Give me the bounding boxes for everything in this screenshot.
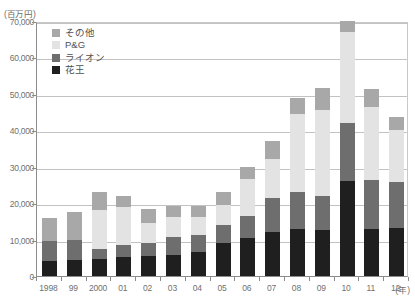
bar-segment — [340, 181, 355, 276]
bar-segment — [265, 141, 280, 159]
x-axis-tick-label: 04 — [185, 283, 210, 293]
bar-segment — [240, 216, 255, 238]
legend-item: 花王 — [52, 65, 105, 76]
bar-segment — [166, 217, 181, 236]
bar-segment — [42, 261, 57, 276]
x-axis-tick-label: 07 — [259, 283, 284, 293]
bar-segment — [67, 240, 82, 260]
bar-segment — [240, 238, 255, 276]
x-axis-tick-mark — [234, 277, 235, 281]
y-axis-tick-label: 0 — [0, 272, 34, 282]
bar-segment — [141, 243, 156, 256]
legend-swatch-icon — [52, 41, 60, 49]
bar-01 — [116, 196, 131, 276]
x-axis-tick-label: 05 — [210, 283, 235, 293]
bar-segment — [191, 217, 206, 235]
bar-03 — [166, 206, 181, 276]
legend-label: ライオン — [65, 53, 105, 63]
bar-segment — [141, 223, 156, 243]
bar-11 — [364, 89, 379, 276]
y-axis-tick-label: 20,000 — [0, 199, 34, 209]
bar-segment — [216, 243, 231, 276]
y-axis-tick-label: 70,000 — [0, 17, 34, 27]
x-axis-tick-label: 06 — [234, 283, 259, 293]
y-axis-tick-label: 60,000 — [0, 53, 34, 63]
bar-12 — [389, 117, 404, 276]
bar-segment — [166, 255, 181, 276]
bar-segment — [116, 257, 131, 276]
legend-swatch-icon — [52, 66, 60, 74]
x-axis-tick-label: 02 — [135, 283, 160, 293]
bar-segment — [166, 237, 181, 255]
bar-06 — [240, 167, 255, 276]
x-axis-tick-label: 99 — [61, 283, 86, 293]
y-axis-tick-label: 10,000 — [0, 236, 34, 246]
legend-item: ライオン — [52, 52, 105, 63]
bar-segment — [216, 225, 231, 243]
y-axis-tick-label: 40,000 — [0, 126, 34, 136]
bar-segment — [389, 117, 404, 130]
x-axis-tick-mark — [61, 277, 62, 281]
bar-segment — [265, 159, 280, 197]
bar-09 — [315, 88, 330, 276]
bar-1998 — [42, 218, 57, 276]
bar-segment — [191, 206, 206, 217]
x-axis-tick-label: 10 — [334, 283, 359, 293]
x-axis-tick-mark — [135, 277, 136, 281]
bar-segment — [340, 123, 355, 181]
bar-08 — [290, 98, 305, 277]
x-axis-tick-label: 09 — [309, 283, 334, 293]
chart-legend: その他P&Gライオン花王 — [52, 27, 105, 76]
bar-segment — [42, 241, 57, 261]
x-axis: (年) 1998992000010203040506070809101112 — [36, 277, 408, 303]
x-axis-tick-label: 01 — [110, 283, 135, 293]
bar-segment — [116, 207, 131, 245]
bar-05 — [216, 192, 231, 276]
bar-segment — [340, 21, 355, 32]
bar-segment — [216, 205, 231, 225]
bar-segment — [141, 209, 156, 224]
bar-segment — [315, 110, 330, 196]
x-axis-tick-mark — [408, 277, 409, 281]
x-axis-tick-mark — [259, 277, 260, 281]
bar-segment — [290, 229, 305, 276]
bar-segment — [92, 210, 107, 248]
bar-segment — [364, 180, 379, 229]
bar-segment — [116, 196, 131, 207]
bar-segment — [389, 182, 404, 228]
bar-2000 — [92, 192, 107, 276]
bar-99 — [67, 212, 82, 276]
x-axis-tick-mark — [86, 277, 87, 281]
stacked-bar-chart: (百万円) 010,00020,00030,00040,00050,00060,… — [0, 0, 415, 303]
bar-segment — [67, 260, 82, 276]
bar-segment — [290, 114, 305, 192]
legend-swatch-icon — [52, 29, 60, 37]
legend-label: P&G — [65, 40, 85, 50]
bar-segment — [92, 259, 107, 276]
bar-segment — [389, 130, 404, 183]
bar-segment — [290, 98, 305, 114]
bar-segment — [240, 179, 255, 215]
x-axis-tick-label: 2000 — [86, 283, 111, 293]
legend-item: その他 — [52, 27, 105, 38]
bar-segment — [67, 212, 82, 239]
legend-label: 花王 — [65, 65, 85, 75]
bar-segment — [92, 249, 107, 259]
bar-segment — [290, 192, 305, 228]
bar-segment — [340, 32, 355, 123]
bar-07 — [265, 141, 280, 276]
x-axis-tick-mark — [110, 277, 111, 281]
legend-swatch-icon — [52, 54, 60, 62]
bar-segment — [216, 192, 231, 205]
legend-item: P&G — [52, 40, 105, 51]
bar-10 — [340, 21, 355, 276]
x-axis-tick-mark — [284, 277, 285, 281]
x-axis-tick-label: 12 — [383, 283, 408, 293]
x-axis-tick-label: 1998 — [36, 283, 61, 293]
bar-segment — [315, 88, 330, 110]
bar-segment — [191, 252, 206, 276]
bar-segment — [315, 196, 330, 231]
bar-segment — [141, 256, 156, 276]
x-axis-tick-mark — [309, 277, 310, 281]
bar-segment — [240, 167, 255, 180]
